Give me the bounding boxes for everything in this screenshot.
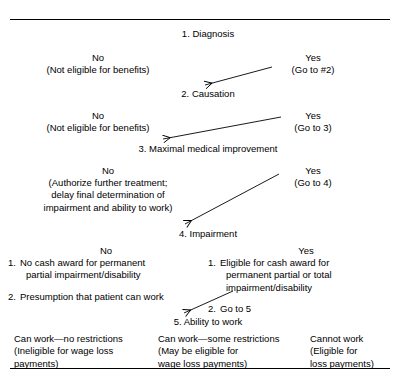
node-ability-to-work: 5. Ability to work (128, 316, 288, 328)
branch3-yes-detail: (Go to 4) (258, 177, 368, 189)
branch4-no-label: No (8, 245, 204, 257)
branch2-yes-detail: (Go to 3) (258, 122, 368, 134)
branch2-no-detail: (Not eligible for benefits) (18, 122, 178, 134)
outcome-line2: (Ineligible for wage loss (14, 345, 154, 357)
outcome-can-work-no-restrictions: Can work—no restrictions (Ineligible for… (14, 333, 154, 370)
node-maximal-medical-improvement: 3. Maximal medical improvement (108, 143, 308, 155)
outcome-line1: Cannot work (310, 333, 410, 345)
outcome-can-work-some-restrictions: Can work—some restrictions (May be eligi… (158, 333, 308, 370)
branch1-yes-label: Yes (258, 52, 368, 64)
branch4-yes-label: Yes (208, 245, 404, 257)
list-item-line2: partial impairment/disability (20, 269, 208, 281)
list-item-number: 1. (208, 257, 216, 269)
branch3-no-detail: (Authorize further treatment; delay fina… (18, 177, 198, 214)
branch1-no-detail: (Not eligible for benefits) (18, 64, 178, 76)
list-item: 2. Presumption that patient can work (8, 291, 208, 303)
branch2-no-label: No (18, 110, 178, 122)
node-causation: 2. Causation (148, 88, 268, 100)
outcome-line1: Can work—some restrictions (158, 333, 308, 345)
list-item-line3: impairment/disability (220, 282, 408, 294)
list-item: 1. Eligible for cash award for permanent… (208, 257, 408, 294)
branch4-no-items: 1. No cash award for permanent partial i… (8, 257, 208, 303)
branch3-no-label: No (18, 165, 198, 177)
list-item: 2. Go to 5 (208, 303, 408, 315)
bottom-horizontal-rule (10, 368, 390, 369)
list-item-line1: Eligible for cash award for (220, 257, 408, 269)
list-item-line1: Go to 5 (220, 303, 408, 315)
branch3-yes-label: Yes (258, 165, 368, 177)
branch3-no-detail-line2: delay final determination of (18, 189, 198, 201)
branch3-no-detail-line1: (Authorize further treatment; (18, 177, 198, 189)
list-item-number: 1. (8, 257, 16, 269)
outcome-cannot-work: Cannot work (Eligible for loss payments) (310, 333, 410, 370)
branch1-yes-detail: (Go to #2) (258, 64, 368, 76)
list-item-line1: Presumption that patient can work (20, 291, 208, 303)
list-item: 1. No cash award for permanent partial i… (8, 257, 208, 282)
outcome-line2: (Eligible for (310, 345, 410, 357)
outcome-line1: Can work—no restrictions (14, 333, 154, 345)
list-item-line2: permanent partial or total (220, 269, 408, 281)
branch3-no-detail-line3: impairment and ability to work) (18, 202, 198, 214)
list-item-number: 2. (8, 291, 16, 303)
outcome-line2: (May be eligible for (158, 345, 308, 357)
branch4-yes-items: 1. Eligible for cash award for permanent… (208, 257, 408, 316)
flowchart-figure: 1. Diagnosis No (Not eligible for benefi… (0, 0, 413, 389)
list-item-number: 2. (208, 303, 216, 315)
branch2-yes-label: Yes (258, 110, 368, 122)
node-impairment: 4. Impairment (148, 228, 268, 240)
branch1-no-label: No (18, 52, 178, 64)
node-diagnosis: 1. Diagnosis (148, 28, 268, 40)
list-item-line1: No cash award for permanent (20, 257, 208, 269)
top-horizontal-rule (10, 19, 390, 20)
